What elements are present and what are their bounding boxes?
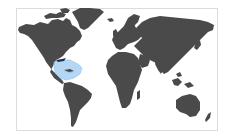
africa bbox=[106, 52, 142, 108]
new-zealand bbox=[205, 112, 211, 122]
south-america bbox=[63, 82, 92, 127]
world-map bbox=[0, 0, 233, 140]
arctic-islands bbox=[44, 12, 66, 19]
iceland bbox=[107, 18, 114, 22]
greenland bbox=[72, 8, 104, 30]
landmasses bbox=[18, 8, 214, 127]
arctic-islands-2 bbox=[60, 8, 70, 13]
madagascar bbox=[137, 90, 140, 100]
australia bbox=[176, 94, 200, 117]
scandinavia bbox=[124, 14, 140, 28]
se-asia-islands bbox=[172, 72, 194, 88]
